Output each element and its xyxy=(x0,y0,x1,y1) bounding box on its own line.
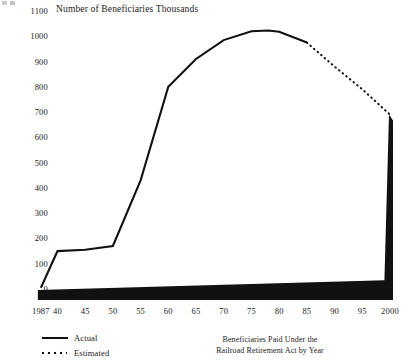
y-tick-1000: 1000 xyxy=(8,31,48,41)
x-tick-75: 75 xyxy=(247,306,256,316)
dotted-line-icon xyxy=(42,348,68,358)
y-tick-900: 900 xyxy=(8,57,48,67)
y-tick-300: 300 xyxy=(8,208,48,218)
chart-page: Number of Beneficiaries Thousands 110010… xyxy=(0,0,411,364)
legend-label-actual: Actual xyxy=(74,333,98,343)
solid-line-icon xyxy=(42,333,68,343)
y-tick-100: 100 xyxy=(8,259,48,269)
x-tick-85: 85 xyxy=(302,306,311,316)
right-edge-dropline xyxy=(384,115,393,295)
x-tick-80: 80 xyxy=(275,306,284,316)
x-tick-50: 50 xyxy=(108,306,117,316)
legend-item-estimated: Estimated xyxy=(42,345,109,360)
legend-label-estimated: Estimated xyxy=(74,348,109,358)
x-tick-65: 65 xyxy=(192,306,201,316)
y-tick-500: 500 xyxy=(8,158,48,168)
x-tick-90: 90 xyxy=(330,306,339,316)
legend-item-actual: Actual xyxy=(42,330,109,345)
x-tick-55: 55 xyxy=(136,306,145,316)
x-tick-60: 60 xyxy=(164,306,173,316)
x-tick-1987: 1987 xyxy=(32,306,50,316)
x-tick-45: 45 xyxy=(81,306,90,316)
chart-caption: Beneficiaries Paid Under the Railroad Re… xyxy=(185,335,355,356)
series-estimated-line xyxy=(307,43,390,115)
y-tick-800: 800 xyxy=(8,82,48,92)
x-axis-baseline xyxy=(38,280,393,300)
y-tick-600: 600 xyxy=(8,132,48,142)
x-tick-70: 70 xyxy=(219,306,228,316)
y-tick-400: 400 xyxy=(8,183,48,193)
series-actual-line xyxy=(41,31,307,288)
caption-line-2: Railroad Retirement Act by Year xyxy=(185,346,355,357)
y-tick-700: 700 xyxy=(8,107,48,117)
chart-legend: Actual Estimated xyxy=(42,330,109,360)
x-tick-95: 95 xyxy=(358,306,367,316)
y-tick-1100: 1100 xyxy=(8,6,48,16)
y-tick-0: 0 xyxy=(8,284,48,294)
y-tick-200: 200 xyxy=(8,233,48,243)
x-tick-40: 40 xyxy=(53,306,62,316)
x-tick-2000: 2000 xyxy=(381,306,399,316)
caption-line-1: Beneficiaries Paid Under the xyxy=(185,335,355,346)
